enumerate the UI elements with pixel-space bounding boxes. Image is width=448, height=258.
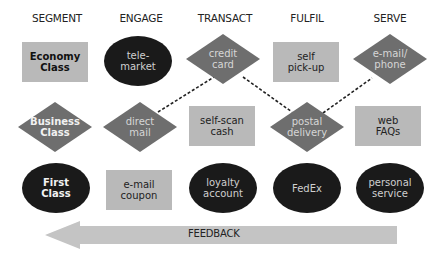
header-fulfil: FULFIL: [262, 12, 352, 24]
node-loyalty-account: loyalty account: [189, 163, 257, 213]
node-label: FedEx: [292, 183, 322, 194]
node-label: postal delivery: [287, 116, 327, 138]
node-label: self pick-up: [288, 51, 325, 73]
node-first-class: First Class: [22, 163, 90, 213]
header-serve: SERVE: [345, 12, 435, 24]
node-label: First Class: [41, 177, 70, 199]
node-label: e-mail coupon: [121, 179, 158, 201]
header-transact: TRANSACT: [180, 12, 270, 24]
node-label: Economy Class: [30, 51, 81, 73]
node-label: self-scan cash: [200, 115, 244, 137]
node-label: web FAQs: [376, 115, 401, 137]
node-economy-class: Economy Class: [22, 42, 88, 82]
node-direct-mail: direct mail: [103, 102, 177, 152]
node-label: personal service: [368, 177, 411, 199]
node-email-phone: e-mail/ phone: [353, 34, 427, 84]
node-label: loyalty account: [203, 177, 243, 199]
node-web-faqs: web FAQs: [355, 106, 421, 146]
header-engage: ENGAGE: [96, 12, 186, 24]
node-email-coupon: e-mail coupon: [106, 170, 172, 210]
node-label: direct mail: [126, 116, 155, 138]
node-label: Business Class: [30, 116, 80, 138]
node-personal-service: personal service: [356, 163, 424, 213]
node-business-class: Business Class: [18, 102, 92, 152]
feedback-label: FEEDBACK: [188, 228, 240, 239]
node-self-scan-cash: self-scan cash: [189, 106, 255, 146]
node-label: tele- market: [120, 50, 156, 72]
node-fedex: FedEx: [273, 163, 341, 213]
node-self-pickup: self pick-up: [273, 42, 339, 82]
node-label: credit card: [209, 48, 238, 70]
diagram-canvas: SEGMENT ENGAGE TRANSACT FULFIL SERVE Eco…: [0, 0, 448, 258]
node-label: e-mail/ phone: [373, 48, 408, 70]
header-segment: SEGMENT: [12, 12, 102, 24]
node-credit-card: credit card: [186, 34, 260, 84]
node-postal-delivery: postal delivery: [270, 102, 344, 152]
node-telemarket: tele- market: [104, 36, 172, 86]
